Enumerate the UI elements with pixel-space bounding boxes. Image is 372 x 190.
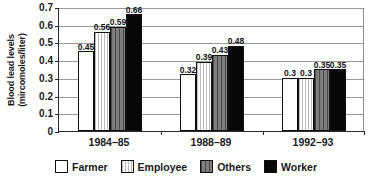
bar-worker-1988–89: 0.48 bbox=[228, 46, 244, 131]
y-axis-tick-label: 0.7 bbox=[39, 3, 53, 13]
legend-label: Farmer bbox=[72, 161, 108, 173]
legend-item-worker[interactable]: Worker bbox=[264, 160, 317, 173]
bar-value-label: 0.59 bbox=[110, 18, 127, 27]
bar-others-1992–93: 0.35 bbox=[314, 69, 330, 131]
bar-worker-1984–85: 0.66 bbox=[126, 14, 142, 131]
y-axis-tick-label: 0 bbox=[47, 127, 53, 137]
bar-value-label: 0.35 bbox=[314, 61, 331, 70]
bar-group: 0.30.30.350.35 bbox=[263, 8, 365, 131]
bar-value-label: 0.43 bbox=[212, 46, 229, 55]
legend-swatch-icon-employee bbox=[121, 160, 134, 173]
legend-item-employee[interactable]: Employee bbox=[121, 160, 188, 173]
bar-group: 0.450.560.590.66 bbox=[59, 8, 161, 131]
x-axis-tick-mark bbox=[263, 131, 264, 135]
bar-value-label: 0.45 bbox=[78, 43, 95, 52]
y-axis-tick-label: 0.6 bbox=[39, 21, 53, 31]
y-axis-title: Blood lead levels (mircomoles/liter) bbox=[0, 0, 34, 140]
y-axis-tick-labels: 00.10.20.30.40.50.60.7 bbox=[30, 8, 56, 132]
y-axis-tick-label: 0.4 bbox=[39, 56, 53, 66]
y-axis-tick-label: 0.5 bbox=[39, 38, 53, 48]
bar-value-label: 0.39 bbox=[196, 53, 213, 62]
bar-value-label: 0.48 bbox=[228, 37, 245, 46]
plot-area: 0.450.560.590.660.320.390.430.480.30.30.… bbox=[58, 8, 364, 132]
bar-value-label: 0.66 bbox=[126, 6, 143, 15]
legend-label: Worker bbox=[281, 161, 317, 173]
bar-group: 0.320.390.430.48 bbox=[161, 8, 263, 131]
bar-value-label: 0.35 bbox=[330, 61, 347, 70]
bar-value-label: 0.56 bbox=[94, 23, 111, 32]
bar-employee-1992–93: 0.3 bbox=[298, 78, 314, 131]
legend-label: Employee bbox=[138, 161, 188, 173]
bar-value-label: 0.3 bbox=[284, 69, 296, 78]
legend-swatch-icon-worker bbox=[264, 160, 277, 173]
y-axis-tick-label: 0.2 bbox=[39, 92, 53, 102]
x-axis-category-label: 1984–85 bbox=[89, 136, 130, 149]
y-axis-tick-label: 0.3 bbox=[39, 74, 53, 84]
bar-employee-1988–89: 0.39 bbox=[196, 62, 212, 131]
bar-farmer-1984–85: 0.45 bbox=[78, 51, 94, 131]
bar-farmer-1992–93: 0.3 bbox=[282, 78, 298, 131]
y-axis-tick-label: 0.1 bbox=[39, 109, 53, 119]
bar-worker-1992–93: 0.35 bbox=[330, 69, 346, 131]
bar-value-label: 0.32 bbox=[180, 66, 197, 75]
legend-swatch-icon-others bbox=[200, 160, 213, 173]
y-axis-title-line-1: Blood lead levels bbox=[6, 33, 17, 107]
legend-item-farmer[interactable]: Farmer bbox=[55, 160, 108, 173]
bar-others-1988–89: 0.43 bbox=[212, 55, 228, 131]
x-axis-tick-mark bbox=[161, 131, 162, 135]
bar-chart: Blood lead levels (mircomoles/liter) 00.… bbox=[0, 0, 372, 190]
chart-legend: FarmerEmployeeOthersWorker bbox=[0, 160, 372, 173]
legend-item-others[interactable]: Others bbox=[200, 160, 251, 173]
y-axis-tick-mark bbox=[55, 132, 59, 133]
y-axis-title-line-2: (mircomoles/liter) bbox=[17, 33, 28, 107]
x-axis-tick-mark bbox=[364, 131, 365, 135]
bar-value-label: 0.3 bbox=[300, 69, 312, 78]
x-axis-category-label: 1988–89 bbox=[191, 136, 232, 149]
legend-label: Others bbox=[217, 161, 251, 173]
bar-farmer-1988–89: 0.32 bbox=[180, 74, 196, 131]
bar-employee-1984–85: 0.56 bbox=[94, 32, 110, 131]
x-axis-category-labels: 1984–851988–891992–93 bbox=[58, 136, 364, 152]
x-axis-category-label: 1992–93 bbox=[293, 136, 334, 149]
legend-swatch-icon-farmer bbox=[55, 160, 68, 173]
bar-others-1984–85: 0.59 bbox=[110, 27, 126, 132]
